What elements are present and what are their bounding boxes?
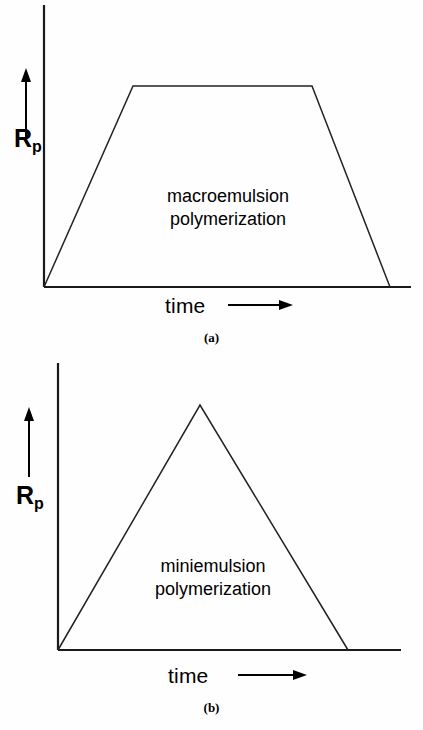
y-axis-label-a-sub: p <box>32 138 42 155</box>
y-axis-label-a-text: R <box>14 124 32 152</box>
panel-b: Rp time miniemulsion polymerization (b) <box>0 355 423 730</box>
rate-curve-b <box>58 405 348 650</box>
chart-b-plot <box>0 355 423 730</box>
x-axis-label-a: time <box>165 294 205 318</box>
panel-caption-b: (b) <box>0 700 423 716</box>
curve-annotation-a-line2: polymerization <box>143 208 313 231</box>
figure-root: Rp time macroemulsion polymerization (a) <box>0 0 423 730</box>
x-axis-arrow-b <box>238 670 307 680</box>
curve-annotation-b-line1: miniemulsion <box>128 555 298 578</box>
y-axis-label-a: Rp <box>14 126 42 151</box>
curve-annotation-a-line1: macroemulsion <box>143 185 313 208</box>
y-axis-arrow-b <box>24 407 34 477</box>
x-axis-arrow-a <box>228 300 293 310</box>
y-axis-label-b: Rp <box>16 483 44 508</box>
curve-annotation-b: miniemulsion polymerization <box>128 555 298 600</box>
curve-annotation-a: macroemulsion polymerization <box>143 185 313 230</box>
y-axis-label-b-sub: p <box>34 495 44 512</box>
chart-a-plot <box>0 0 423 355</box>
panel-a: Rp time macroemulsion polymerization (a) <box>0 0 423 355</box>
y-axis-label-b-text: R <box>16 481 34 509</box>
x-axis-label-b: time <box>168 664 208 688</box>
curve-annotation-b-line2: polymerization <box>128 578 298 601</box>
panel-caption-a: (a) <box>0 330 423 346</box>
